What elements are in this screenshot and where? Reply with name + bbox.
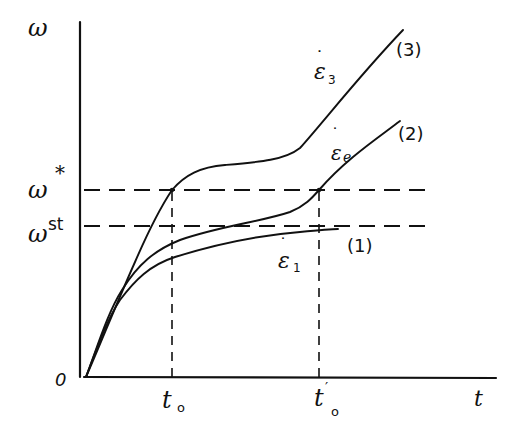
epsilon-1-label: ˙ ε 1 [278, 235, 301, 275]
t0-label: t o [162, 386, 185, 415]
svg-text:ε: ε [314, 59, 326, 84]
x-axis [84, 377, 496, 378]
curve-1-tag: (1) [347, 235, 373, 256]
svg-text:ε: ε [331, 141, 342, 165]
omega-star-label: ω * [28, 161, 65, 204]
epsilon-3-label: ˙ ε 3 [314, 47, 336, 87]
svg-text:t: t [314, 384, 324, 412]
svg-text:o: o [331, 404, 339, 419]
svg-text:ε: ε [278, 248, 290, 273]
svg-text:ω: ω [28, 176, 48, 204]
x-axis-label: t [474, 386, 483, 411]
diagram-canvas: ω t 0 ω * ω st t o t ′ o (3) (2) (1) ˙ ε… [0, 0, 527, 445]
t0prime-label: t ′ o [314, 379, 339, 419]
t0prime-intersection-dot [317, 188, 321, 192]
curve-1 [86, 229, 338, 377]
svg-text:o: o [177, 400, 185, 415]
svg-text:e: e [343, 149, 351, 165]
t0-intersection-dot [170, 188, 174, 192]
origin-label: 0 [55, 369, 66, 390]
curve-2-tag: (2) [398, 123, 424, 144]
omega-st-label: ω st [28, 214, 64, 248]
curve-3-tag: (3) [396, 39, 422, 60]
plot-svg: ω t 0 ω * ω st t o t ′ o (3) (2) (1) ˙ ε… [0, 0, 527, 445]
svg-text:ω: ω [28, 220, 48, 248]
svg-text:′: ′ [325, 379, 328, 395]
y-axis-label: ω [28, 14, 48, 42]
epsilon-e-label: ˙ ε e [331, 125, 351, 165]
svg-text:*: * [55, 161, 65, 185]
svg-text:st: st [48, 214, 64, 234]
curve-3 [86, 30, 403, 377]
svg-text:t: t [162, 386, 172, 414]
svg-text:1: 1 [293, 261, 301, 275]
svg-text:3: 3 [328, 73, 336, 87]
